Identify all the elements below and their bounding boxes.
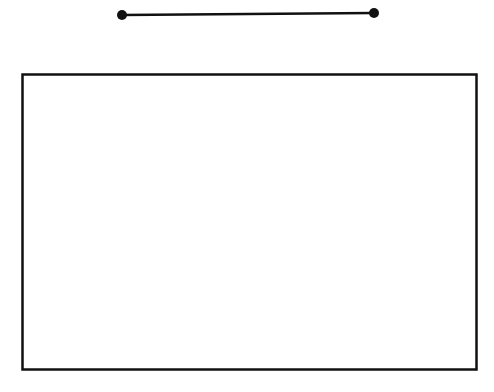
segment-endpoint-right xyxy=(369,8,379,18)
diagram-canvas xyxy=(0,0,494,392)
line-segment xyxy=(122,13,374,15)
segment-endpoint-left xyxy=(117,10,127,20)
rectangle-shape xyxy=(23,75,477,370)
